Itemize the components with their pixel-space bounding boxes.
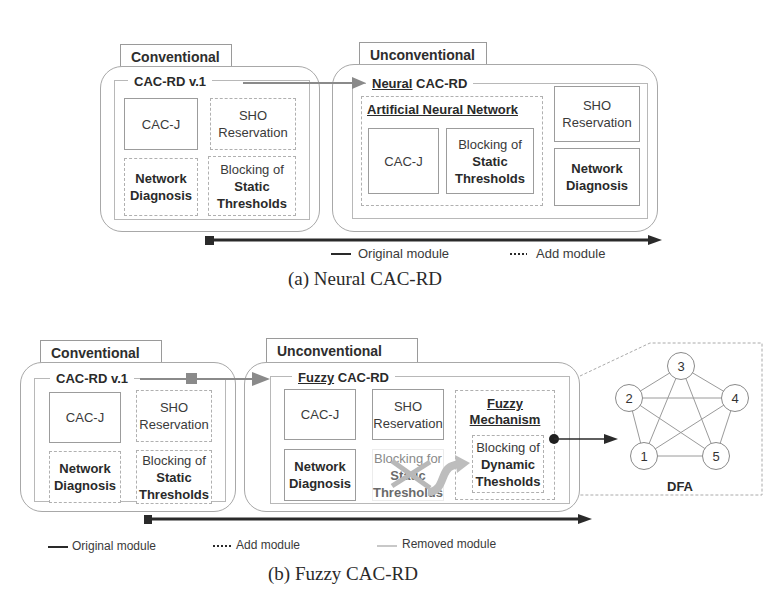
dfa-link-arrow-head-icon: [604, 434, 618, 444]
legend-label: Original module: [72, 539, 156, 553]
migration-arrow-icon: [428, 464, 458, 492]
figure-b-connectors: [0, 0, 781, 594]
evolution-arrow-start-marker-icon: [186, 373, 197, 384]
legend-label: Removed module: [402, 537, 496, 551]
legend-original-b: Original module: [72, 539, 156, 553]
timeline-arrow-head-icon: [578, 514, 592, 524]
migration-arrow-head-icon: [455, 455, 470, 473]
legend-removed-b: Removed module: [402, 537, 496, 551]
evolution-arrow-head-icon: [252, 372, 270, 386]
legend-add-b: Add module: [236, 538, 300, 552]
legend-label: Add module: [236, 538, 300, 552]
caption-b: (b) Fuzzy CAC-RD: [268, 563, 418, 585]
